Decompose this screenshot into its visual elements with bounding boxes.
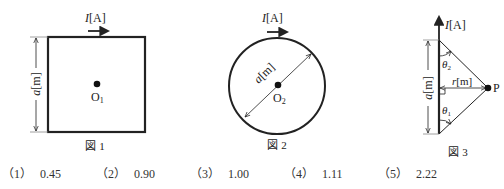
svg-text:I[A]: I[A] bbox=[84, 11, 106, 25]
figure-3: I[A] a[m] r[m] P θ2 θ1 図 3 bbox=[421, 17, 500, 158]
angle-top-subscript: 2 bbox=[447, 64, 451, 72]
svg-text:a[m]: a[m] bbox=[29, 72, 43, 95]
svg-text:a[m]: a[m] bbox=[421, 76, 435, 99]
answer-choice[interactable]: （5）2.22 bbox=[378, 164, 437, 182]
angle-bottom-subscript: 1 bbox=[447, 110, 451, 118]
svg-text:O1: O1 bbox=[91, 90, 104, 105]
angle-arc-top bbox=[439, 51, 451, 56]
distance-unit: [m] bbox=[456, 75, 472, 87]
current-unit: [A] bbox=[89, 11, 106, 25]
choice-value: 1.00 bbox=[228, 167, 249, 181]
dimension-unit: [m] bbox=[421, 76, 435, 93]
answer-choice[interactable]: （3）1.00 bbox=[190, 164, 249, 182]
point-label: P bbox=[493, 81, 500, 95]
figure-caption: 図 3 bbox=[448, 146, 468, 158]
center-label: O bbox=[273, 91, 282, 105]
diagram-canvas: I[A] a[m] O1 図 1 I[A] a[m] O2 図 bbox=[0, 0, 504, 189]
choice-number: （5） bbox=[378, 167, 408, 181]
choice-value: 2.22 bbox=[416, 167, 437, 181]
choice-value: 0.90 bbox=[134, 167, 155, 181]
center-subscript: 2 bbox=[282, 97, 286, 106]
figure-2: I[A] a[m] O2 図 2 bbox=[229, 11, 325, 151]
choice-number: （3） bbox=[190, 167, 220, 181]
choice-number: （4） bbox=[284, 167, 314, 181]
figure-caption: 図 1 bbox=[85, 140, 104, 152]
svg-text:O2: O2 bbox=[273, 91, 286, 106]
current-unit: [A] bbox=[449, 18, 466, 32]
choice-number: （2） bbox=[96, 167, 126, 181]
dimension-unit: [m] bbox=[29, 72, 43, 89]
svg-text:r[m]: r[m] bbox=[452, 75, 472, 87]
figure-1: I[A] a[m] O1 図 1 bbox=[29, 11, 145, 152]
choice-value: 1.11 bbox=[322, 167, 343, 181]
svg-text:a[m]: a[m] bbox=[251, 60, 278, 86]
center-point bbox=[275, 82, 282, 89]
svg-text:θ2: θ2 bbox=[442, 58, 451, 72]
choice-number: （1） bbox=[2, 167, 32, 181]
center-point bbox=[94, 81, 101, 88]
choice-value: 0.45 bbox=[40, 167, 61, 181]
svg-text:I[A]: I[A] bbox=[444, 18, 466, 32]
figure-caption: 図 2 bbox=[267, 139, 286, 151]
svg-text:θ1: θ1 bbox=[442, 104, 451, 118]
current-unit: [A] bbox=[266, 11, 283, 25]
point-p bbox=[485, 85, 492, 92]
center-label: O bbox=[91, 90, 100, 104]
angle-arc-bottom bbox=[439, 120, 451, 124]
svg-text:I[A]: I[A] bbox=[261, 11, 283, 25]
answer-choices: （1）0.45 （2）0.90 （3）1.00 （4）1.11 （5）2.22 bbox=[0, 164, 504, 184]
answer-choice[interactable]: （1）0.45 bbox=[2, 164, 61, 182]
center-subscript: 1 bbox=[100, 96, 104, 105]
answer-choice[interactable]: （2）0.90 bbox=[96, 164, 155, 182]
answer-choice[interactable]: （4）1.11 bbox=[284, 164, 343, 182]
